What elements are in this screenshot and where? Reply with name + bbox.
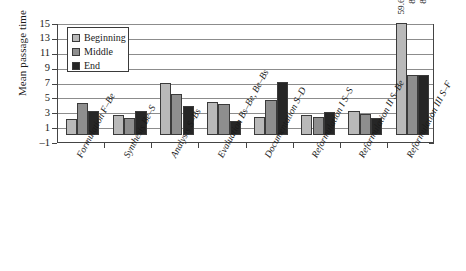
bar-value-label: 59.6 bbox=[396, 0, 405, 18]
x-axis-tick bbox=[198, 143, 199, 148]
y-axis-tick-label: 13 bbox=[24, 33, 50, 43]
bar bbox=[407, 75, 418, 135]
x-axis-tick bbox=[340, 143, 341, 148]
legend-swatch-icon bbox=[72, 62, 80, 70]
bar bbox=[66, 119, 77, 135]
legend-item-label: Middle bbox=[84, 47, 113, 57]
bar-value-label: 8 bbox=[407, 0, 416, 13]
x-axis-tick bbox=[387, 143, 388, 148]
gridline bbox=[58, 24, 433, 25]
bar bbox=[348, 111, 359, 135]
y-axis-tick-label: 3 bbox=[24, 108, 50, 118]
y-axis-tick-label: 1 bbox=[24, 123, 50, 133]
gridline bbox=[58, 84, 433, 85]
legend-item-label: Beginning bbox=[84, 33, 126, 43]
legend-item: Beginning bbox=[72, 31, 125, 44]
y-axis-tick bbox=[52, 143, 57, 144]
legend-swatch-icon bbox=[72, 34, 80, 42]
bar bbox=[301, 115, 312, 134]
y-axis-tick-label: 7 bbox=[24, 78, 50, 88]
y-axis-tick-label: –1 bbox=[24, 138, 50, 148]
right-axis-tick bbox=[429, 143, 434, 144]
bar-value-label: 8 bbox=[419, 0, 428, 13]
y-axis-tick-label: 11 bbox=[24, 48, 50, 58]
y-axis-tick-label: 5 bbox=[24, 93, 50, 103]
bar bbox=[160, 83, 171, 135]
bar bbox=[207, 102, 218, 135]
x-axis-tick bbox=[151, 143, 152, 148]
y-axis-tick-label: 9 bbox=[24, 63, 50, 73]
bar bbox=[254, 117, 265, 135]
x-axis-tick bbox=[104, 143, 105, 148]
y-axis-tick-label: 15 bbox=[24, 19, 50, 29]
x-axis-tick bbox=[293, 143, 294, 148]
legend-item: End bbox=[72, 59, 125, 72]
legend-swatch-icon bbox=[72, 48, 80, 56]
chart-figure: Mean passage time 15131197531–1 Formulat… bbox=[0, 0, 466, 271]
legend: BeginningMiddleEnd bbox=[67, 27, 129, 72]
legend-item: Middle bbox=[72, 45, 125, 58]
x-axis-tick bbox=[246, 143, 247, 148]
bar bbox=[113, 115, 124, 134]
legend-item-label: End bbox=[84, 61, 100, 71]
